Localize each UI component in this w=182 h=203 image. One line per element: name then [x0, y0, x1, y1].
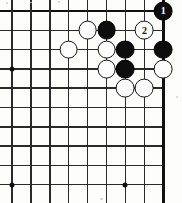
page-speck — [6, 2, 8, 4]
stone-white[interactable] — [97, 59, 116, 78]
stone-white[interactable] — [154, 59, 173, 78]
stone-white[interactable] — [97, 40, 116, 59]
stone-black[interactable] — [154, 40, 173, 59]
grid-line-horizontal — [0, 184, 164, 186]
star-point — [123, 182, 128, 187]
grid-line-horizontal — [0, 49, 164, 51]
stone-black[interactable] — [116, 59, 135, 78]
move-number-label: 2 — [142, 25, 147, 35]
grid-line-vertical — [125, 0, 127, 203]
stone-white-move-2[interactable]: 2 — [135, 21, 154, 40]
grid-line-horizontal — [0, 107, 164, 109]
grid-line-horizontal — [0, 68, 164, 70]
page-speck — [30, 2, 32, 3]
stone-white[interactable] — [135, 79, 154, 98]
stone-white[interactable] — [116, 79, 135, 98]
grid-line-vertical — [11, 0, 13, 203]
grid-line-vertical — [49, 0, 51, 203]
stone-white[interactable] — [78, 21, 97, 40]
go-board-diagram: 21 — [0, 0, 182, 203]
grid-line-horizontal — [0, 10, 165, 13]
stone-black-move-1[interactable]: 1 — [154, 2, 173, 21]
move-number-label: 1 — [161, 6, 166, 16]
page-speck — [58, 1, 60, 3]
grid-line-vertical — [68, 0, 70, 203]
grid-line-horizontal — [0, 126, 164, 128]
grid-line-vertical — [30, 0, 32, 203]
stone-white[interactable] — [59, 40, 78, 59]
stone-black[interactable] — [97, 21, 116, 40]
page-speck — [176, 96, 178, 98]
grid-line-vertical — [162, 0, 165, 203]
stone-black[interactable] — [116, 40, 135, 59]
star-point — [10, 66, 15, 71]
grid-line-horizontal — [0, 145, 164, 147]
page-speck — [100, 198, 103, 200]
grid-line-horizontal — [0, 165, 164, 167]
star-point — [10, 182, 15, 187]
